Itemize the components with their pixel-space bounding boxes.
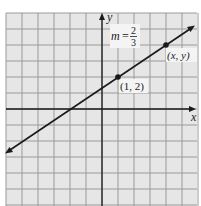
slope-m: m: [111, 29, 120, 43]
y-axis-label: y: [106, 10, 113, 24]
point-x-y: [163, 42, 169, 48]
coordinate-plane: y x m = 2 3 (1, 2) (x, y): [0, 0, 201, 206]
slope-numerator: 2: [131, 25, 136, 36]
point1-label: (1, 2): [120, 80, 144, 93]
slope-equals: =: [122, 29, 129, 43]
point2-label: (x, y): [167, 49, 190, 62]
slope-denominator: 3: [131, 37, 136, 48]
point-1-2: [115, 74, 121, 80]
x-axis-label: x: [190, 110, 197, 124]
